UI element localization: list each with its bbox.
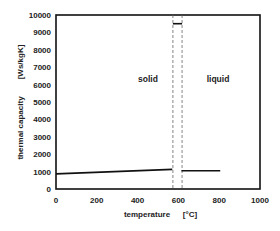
y-tick-label: 4000 [33,115,51,124]
x-tick-label: 200 [90,196,104,205]
y-tick-label: 6000 [33,81,51,90]
solid-annotation: solid [138,74,158,84]
y-tick-label: 5000 [33,98,51,107]
data-series [56,24,220,174]
y-tick-label: 9000 [33,28,51,37]
liquid-annotation: liquid [207,74,230,84]
x-axis-label: temperature [124,210,171,219]
x-tick-label: 400 [131,196,145,205]
y-tick-label: 10000 [29,11,52,20]
y-axis-label: thermal capacity [16,96,25,160]
phase-boundary-lines [173,15,182,189]
y-tick-label: 8000 [33,46,51,55]
y-axis-unit: [Ws/kgK] [16,44,25,79]
x-tick-label: 800 [213,196,227,205]
x-tick-label: 0 [54,196,59,205]
plot-frame [56,15,260,189]
series-solid [56,169,172,174]
x-axis-unit: [°C] [183,210,198,219]
y-tick-label: 7000 [33,63,51,72]
x-axis-ticks: 02004006008001000 [54,196,270,205]
y-tick-label: 2000 [33,150,51,159]
y-tick-label: 0 [47,185,52,194]
y-tick-label: 3000 [33,133,51,142]
y-axis-ticks: 0100020003000400050006000700080009000100… [29,11,52,194]
thermal-capacity-chart: 0100020003000400050006000700080009000100… [0,0,280,231]
x-tick-label: 600 [172,196,186,205]
y-tick-label: 1000 [33,168,51,177]
x-tick-label: 1000 [251,196,269,205]
